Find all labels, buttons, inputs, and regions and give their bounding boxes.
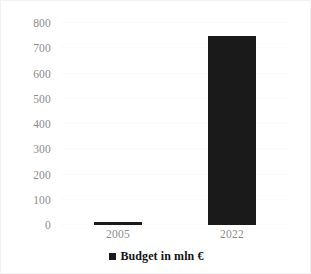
plot-area <box>61 23 289 225</box>
legend-item-budget: Budget in mln € <box>109 249 203 264</box>
bar-2005 <box>94 222 142 225</box>
legend-item-label: Budget in mln € <box>120 249 203 264</box>
bar-2022 <box>208 36 256 225</box>
x-axis: 20052022 <box>61 228 289 246</box>
x-axis-tick-label: 2005 <box>106 228 130 240</box>
y-axis-tick-label: 500 <box>33 93 51 105</box>
y-axis-tick-label: 600 <box>33 68 51 80</box>
y-axis-tick-label: 700 <box>33 42 51 54</box>
bar-chart-figure: 0100200300400500600700800 20052022 Budge… <box>0 0 311 274</box>
y-axis-tick-label: 0 <box>45 219 51 231</box>
bar-series <box>61 23 289 225</box>
chart-legend: Budget in mln € <box>1 249 311 264</box>
y-axis-tick-label: 100 <box>33 194 51 206</box>
y-axis: 0100200300400500600700800 <box>1 1 57 274</box>
y-axis-tick-label: 800 <box>33 17 51 29</box>
x-axis-tick-label: 2022 <box>220 228 244 240</box>
y-axis-tick-label: 200 <box>33 169 51 181</box>
y-axis-tick-label: 400 <box>33 118 51 130</box>
legend-swatch-icon <box>109 253 116 260</box>
y-axis-tick-label: 300 <box>33 143 51 155</box>
